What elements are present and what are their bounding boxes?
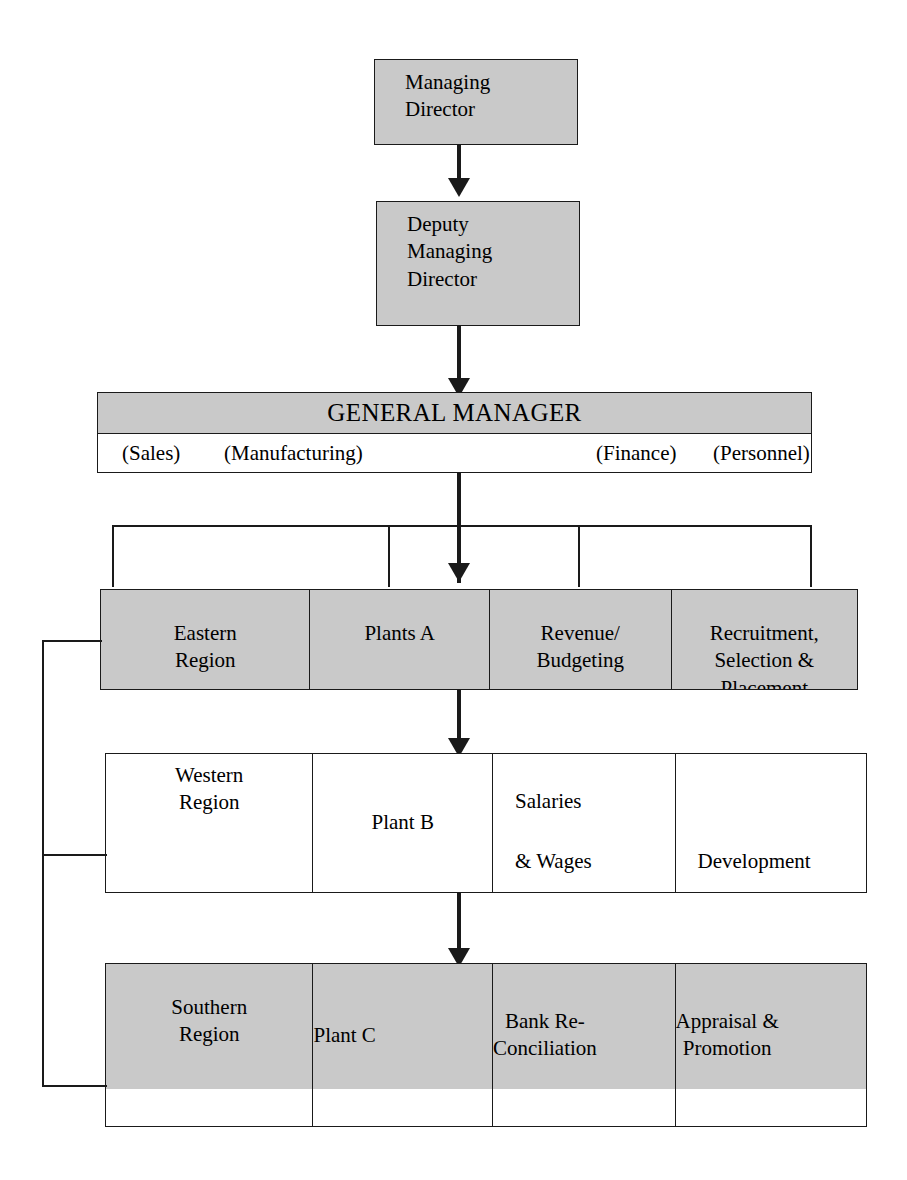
tier-3-cell-southern-region[interactable]: Southern Region [106, 964, 313, 1126]
distribution-drop-2 [388, 525, 390, 587]
org-chart: Managing Director Deputy Managing Direct… [0, 0, 907, 1180]
tier-3-cell-bank-reconciliation[interactable]: Bank Re- Conciliation [493, 964, 676, 1126]
distribution-drop-1 [112, 525, 114, 587]
tier-1-cell-plants-a[interactable]: Plants A [310, 590, 490, 689]
tier-3-cell-plant-c-label: Plant C [313, 1022, 375, 1049]
node-deputy-managing-director[interactable]: Deputy Managing Director [376, 201, 580, 326]
tier-2-cell-salaries-and-wages[interactable]: Salaries & Wages [493, 754, 676, 892]
gm-function-finance[interactable]: (Finance) [596, 441, 676, 466]
tier-1-cell-eastern-region-label: Eastern Region [101, 620, 309, 675]
tier-3-cell-southern-region-label: Southern Region [106, 994, 312, 1049]
tier-1-row: Eastern Region Plants A Revenue/ Budgeti… [100, 589, 858, 690]
tier-2-cell-salaries-label: Salaries [493, 788, 581, 815]
gm-function-personnel[interactable]: (Personnel) [713, 441, 810, 466]
general-manager-functions-row: (Sales) (Manufacturing) (Finance) (Perso… [97, 434, 812, 473]
distribution-bus-horizontal [112, 525, 812, 527]
tier-3-cell-appraisal-promotion-label: Appraisal & Promotion [676, 1008, 779, 1063]
tier-1-cell-revenue-budgeting-label: Revenue/ Budgeting [490, 620, 671, 675]
arrowhead-md-to-dmd [448, 178, 470, 197]
tier-2-cell-western-region-label: Western Region [106, 762, 312, 817]
tier-1-cell-revenue-budgeting[interactable]: Revenue/ Budgeting [490, 590, 672, 689]
arrowhead-gm-to-tier1 [448, 563, 470, 582]
tier-2-cell-plant-b[interactable]: Plant B [313, 754, 493, 892]
tier-2-cell-plant-b-label: Plant B [313, 809, 492, 836]
general-manager-title: GENERAL MANAGER [327, 399, 581, 427]
distribution-drop-4 [810, 525, 812, 587]
tier-1-cell-recruitment-selection-placement[interactable]: Recruitment, Selection & Placement [672, 590, 858, 689]
gm-function-manufacturing[interactable]: (Manufacturing) [224, 441, 363, 466]
regional-bracket-stub-eastern [42, 640, 102, 642]
tier-3-row: Southern Region Plant C Bank Re- Concili… [105, 963, 867, 1127]
tier-2-cell-western-region[interactable]: Western Region [106, 754, 313, 892]
tier-1-cell-recruitment-selection-placement-label: Recruitment, Selection & Placement [672, 620, 858, 689]
tier-3-cell-plant-c[interactable]: Plant C [313, 964, 493, 1126]
gm-function-sales[interactable]: (Sales) [122, 441, 180, 466]
tier-2-cell-development-label: Development [676, 848, 811, 875]
tier-2-cell-development[interactable]: Development [676, 754, 867, 892]
regional-bracket-stub-southern [42, 1085, 107, 1087]
node-general-manager[interactable]: GENERAL MANAGER [97, 392, 812, 434]
tier-1-cell-eastern-region[interactable]: Eastern Region [101, 590, 310, 689]
tier-1-cell-plants-a-label: Plants A [310, 620, 489, 647]
tier-2-cell-wages-label: & Wages [493, 848, 592, 875]
regional-bracket-spine [42, 640, 44, 1087]
node-managing-director[interactable]: Managing Director [374, 59, 578, 145]
tier-3-cell-bank-reconciliation-label: Bank Re- Conciliation [493, 1008, 597, 1063]
regional-bracket-stub-western [42, 854, 107, 856]
node-deputy-managing-director-label: Deputy Managing Director [407, 211, 579, 293]
tier-3-cell-appraisal-promotion[interactable]: Appraisal & Promotion [676, 964, 867, 1126]
node-managing-director-label: Managing Director [405, 69, 577, 124]
tier-2-row: Western Region Plant B Salaries & Wages … [105, 753, 867, 893]
distribution-drop-3 [578, 525, 580, 587]
